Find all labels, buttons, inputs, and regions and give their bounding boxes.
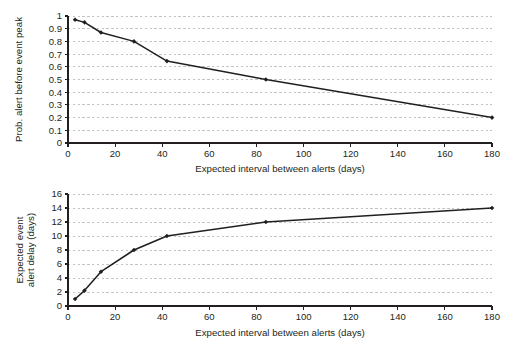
x-axis-title: Expected interval between alerts (days) [195,163,365,174]
data-series-line [75,20,492,118]
y-tick-label-0: 0 [57,137,62,148]
y-tick-label-2: 4 [57,272,62,283]
y-tick-label-7: 0.7 [49,49,62,60]
y-tick-label-1: 2 [57,286,62,297]
x-tick-label-3: 60 [204,311,215,322]
y-axis-title-line-0: Prob. alert before event peak [13,17,24,142]
y-tick-label-4: 8 [57,244,62,255]
data-point-marker-6 [490,115,495,120]
x-tick-label-1: 20 [110,148,121,159]
x-tick-label-1: 20 [110,311,121,322]
data-point-marker-6 [490,206,495,211]
y-tick-label-9: 0.9 [49,23,62,34]
y-axis-title-line-0: Expected event [14,216,25,283]
y-tick-label-8: 0.8 [49,36,62,47]
chart-panel-expected-event-alert-delay: 0246810121416020406080100120140160180Exp… [0,180,507,353]
x-tick-label-7: 140 [390,311,406,322]
x-axis-title: Expected interval between alerts (days) [195,327,365,338]
y-axis-title-line-1: alert delay (days) [25,213,36,287]
x-tick-label-2: 40 [157,311,168,322]
x-tick-label-5: 100 [296,311,312,322]
x-tick-label-5: 100 [296,148,312,159]
y-tick-label-5: 10 [51,230,62,241]
y-tick-label-6: 12 [51,216,62,227]
x-tick-label-4: 80 [251,311,262,322]
y-tick-label-10: 1 [57,10,62,21]
chart-panel-prob-alert-before-event-peak: 00.10.20.30.40.50.60.70.80.9102040608010… [0,0,507,180]
data-point-marker-0 [73,18,78,23]
y-tick-label-8: 16 [51,188,62,199]
y-tick-label-4: 0.4 [49,87,62,98]
x-tick-label-3: 60 [204,148,215,159]
y-tick-label-3: 0.3 [49,99,62,110]
x-tick-label-2: 40 [157,148,168,159]
y-tick-label-2: 0.2 [49,112,62,123]
y-tick-label-1: 0.1 [49,125,62,136]
x-tick-label-0: 0 [65,311,70,322]
data-point-marker-5 [264,220,269,225]
chart-svg-top: 00.10.20.30.40.50.60.70.80.9102040608010… [0,0,507,180]
y-tick-label-5: 0.5 [49,74,62,85]
x-tick-label-8: 160 [437,311,453,322]
y-tick-label-6: 0.6 [49,61,62,72]
x-tick-label-6: 120 [343,148,359,159]
x-tick-label-7: 140 [390,148,406,159]
data-point-marker-5 [264,77,269,82]
y-tick-label-7: 14 [51,202,62,213]
chart-svg-bottom: 0246810121416020406080100120140160180Exp… [0,180,507,353]
x-tick-label-0: 0 [65,148,70,159]
y-tick-label-3: 6 [57,258,62,269]
x-tick-label-9: 180 [484,311,500,322]
x-tick-label-8: 160 [437,148,453,159]
x-tick-label-6: 120 [343,311,359,322]
y-tick-label-0: 0 [57,300,62,311]
x-tick-label-9: 180 [484,148,500,159]
data-point-marker-4 [165,234,170,239]
x-tick-label-4: 80 [251,148,262,159]
figure-two-panel-chart: 00.10.20.30.40.50.60.70.80.9102040608010… [0,0,507,353]
